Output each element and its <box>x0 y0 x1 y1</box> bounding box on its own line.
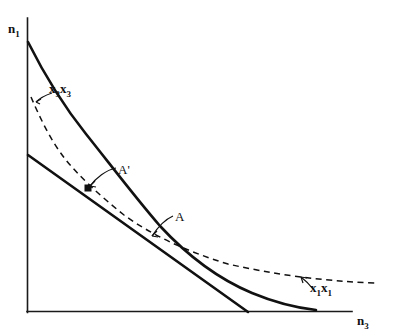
curve-label-x1x1: x1x1 <box>310 281 332 298</box>
curve-label-x3x3: x3x3 <box>49 82 71 99</box>
axes-group <box>27 18 352 313</box>
dashed-isoquant-x1x1-curve <box>31 97 375 283</box>
budget-line <box>28 155 248 312</box>
curve-label-x3x3-sub2: 3 <box>67 89 72 99</box>
x-axis-label: n3 <box>357 314 369 331</box>
diagram-canvas <box>0 0 395 336</box>
x-axis-label-subscript: 3 <box>364 321 369 331</box>
economics-isoquant-diagram: n1 n3 x3x3 x1x1 A' A <box>0 0 395 336</box>
point-a-prime-leader <box>90 168 116 186</box>
point-label-a: A <box>175 210 184 223</box>
y-axis-label-subscript: 1 <box>15 29 20 39</box>
y-axis-label: n1 <box>8 22 20 39</box>
curve-label-x1x1-sub2: 1 <box>328 288 333 298</box>
solid-isoquant-x3x3-curve <box>28 42 316 310</box>
point-label-a-prime: A' <box>118 163 130 176</box>
